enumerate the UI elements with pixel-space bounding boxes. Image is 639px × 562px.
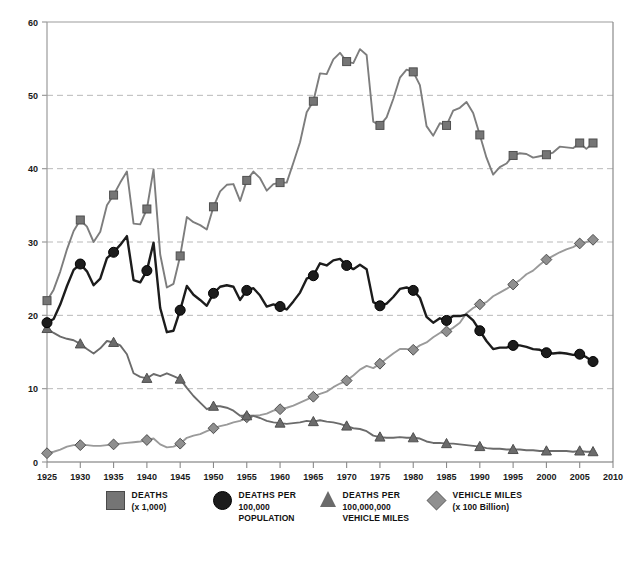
svg-text:1985: 1985 (437, 472, 457, 482)
svg-text:1945: 1945 (170, 472, 190, 482)
series-circle (42, 236, 598, 366)
legend-label-deaths-per-vehicle-miles: DEATHS PER 100,000,000 VEHICLE MILES (343, 490, 409, 525)
legend-line-1: DEATHS PER (239, 490, 297, 502)
legend-label-vehicle-miles: VEHICLE MILES (x 100 Billion) (453, 490, 523, 513)
legend-label-deaths-per-population: DEATHS PER 100,000 POPULATION (239, 490, 297, 525)
svg-text:20: 20 (28, 311, 38, 321)
svg-text:1940: 1940 (137, 472, 157, 482)
chart-legend: DEATHS (x 1,000) DEATHS PER 100,000 POPU… (0, 490, 639, 562)
legend-line-3: POPULATION (239, 513, 297, 525)
svg-text:2005: 2005 (570, 472, 590, 482)
svg-text:1950: 1950 (203, 472, 223, 482)
svg-text:30: 30 (28, 238, 38, 248)
legend-line-2: (x 100 Billion) (453, 502, 523, 514)
series-square (43, 49, 597, 305)
svg-text:1955: 1955 (237, 472, 257, 482)
svg-text:40: 40 (28, 164, 38, 174)
legend-item-deaths-per-vehicle-miles: DEATHS PER 100,000,000 VEHICLE MILES (320, 490, 427, 525)
svg-text:1970: 1970 (337, 472, 357, 482)
legend-line-1: DEATHS (132, 490, 168, 502)
legend-line-2: 100,000,000 (343, 502, 409, 514)
svg-text:1925: 1925 (37, 472, 57, 482)
chart-container: 6050403020100192519301935194019451950195… (0, 0, 639, 562)
svg-text:60: 60 (28, 18, 38, 28)
svg-text:0: 0 (33, 458, 38, 468)
diamond-swatch-icon (426, 491, 446, 511)
traffic-fatalities-line-chart: 6050403020100192519301935194019451950195… (0, 0, 639, 562)
svg-text:1975: 1975 (370, 472, 390, 482)
data-series (42, 49, 599, 458)
circle-swatch-icon (213, 491, 232, 510)
svg-text:2010: 2010 (603, 472, 623, 482)
svg-text:1935: 1935 (104, 472, 124, 482)
svg-text:1965: 1965 (303, 472, 323, 482)
svg-text:50: 50 (28, 91, 38, 101)
legend-item-deaths: DEATHS (x 1,000) (106, 490, 213, 513)
legend-item-deaths-per-population: DEATHS PER 100,000 POPULATION (213, 490, 320, 525)
square-swatch-icon (106, 491, 125, 510)
svg-text:1995: 1995 (503, 472, 523, 482)
legend-line-1: VEHICLE MILES (453, 490, 523, 502)
svg-text:2000: 2000 (536, 472, 556, 482)
legend-line-1: DEATHS PER (343, 490, 409, 502)
svg-text:1930: 1930 (70, 472, 90, 482)
legend-line-2: 100,000 (239, 502, 297, 514)
triangle-swatch-icon (320, 491, 336, 507)
svg-text:1960: 1960 (270, 472, 290, 482)
legend-item-vehicle-miles: VEHICLE MILES (x 100 Billion) (427, 490, 534, 513)
legend-label-deaths: DEATHS (x 1,000) (132, 490, 168, 513)
legend-line-3: VEHICLE MILES (343, 513, 409, 525)
legend-line-2: (x 1,000) (132, 502, 168, 514)
svg-text:1990: 1990 (470, 472, 490, 482)
svg-text:1980: 1980 (403, 472, 423, 482)
gridlines (47, 95, 613, 388)
svg-text:10: 10 (28, 384, 38, 394)
